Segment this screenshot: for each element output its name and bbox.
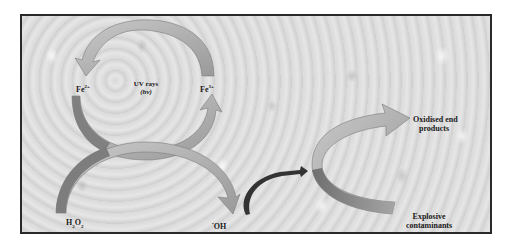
label-h2o2-sub2: 2 (81, 224, 84, 229)
label-oxidised-line2: products (413, 124, 458, 133)
label-explosive-line2: contaminants (396, 221, 462, 230)
label-fe2-charge: 2+ (84, 84, 89, 89)
label-oxidised-line1: Oxidised end (413, 115, 458, 124)
label-uv-line1: UV rays (124, 80, 168, 88)
label-uv-rays: UV rays (hv) (124, 80, 168, 96)
arrow-contaminants-to-oxidised (312, 104, 410, 214)
label-h2o2: H2O2 (66, 218, 83, 231)
label-hydroxyl-radical: •OH (212, 219, 226, 231)
arrow-oh-to-contaminants (244, 166, 308, 215)
arrow-fe3-to-fe2 (75, 20, 214, 76)
label-fe3-charge: 3+ (208, 84, 213, 89)
label-fe2: Fe2+ (76, 82, 90, 94)
label-uv-hv: (hv) (124, 88, 168, 96)
label-explosive-line1: Explosive (396, 212, 462, 221)
label-oxidised-products: Oxidised end products (413, 115, 458, 133)
label-fe3: Fe3+ (200, 82, 214, 94)
label-oh-base: OH (214, 222, 226, 231)
label-explosive-contaminants: Explosive contaminants (396, 212, 462, 230)
